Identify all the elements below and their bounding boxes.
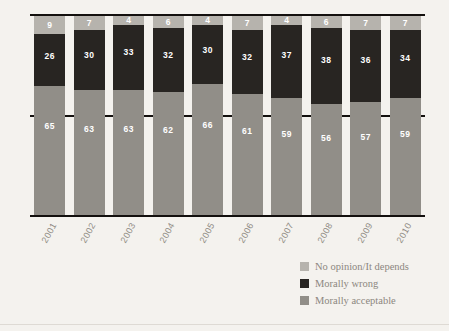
x-axis-tick-cell: 2003 xyxy=(109,219,149,265)
footer-divider xyxy=(0,324,449,325)
bar-value-label: 63 xyxy=(124,124,134,133)
bar-segment[interactable]: 56 xyxy=(311,104,342,215)
bar-segment[interactable]: 61 xyxy=(232,94,263,215)
bar-value-label: 4 xyxy=(126,16,131,25)
x-axis-tick-label: 2008 xyxy=(316,221,335,245)
bar-value-label: 32 xyxy=(242,52,252,61)
bar-segment[interactable]: 63 xyxy=(113,90,144,215)
bar-column[interactable]: 63856 xyxy=(311,16,342,215)
bar-segment[interactable]: 59 xyxy=(390,98,421,215)
bar-value-label: 30 xyxy=(84,51,94,60)
bar-value-label: 34 xyxy=(400,54,410,63)
bar-column[interactable]: 73657 xyxy=(350,16,381,215)
x-axis-tick-cell: 2002 xyxy=(70,219,110,265)
x-axis-tick-label: 2001 xyxy=(39,221,58,245)
bar-segment[interactable]: 30 xyxy=(74,30,105,90)
legend-item-label: Morally acceptable xyxy=(315,295,396,306)
x-axis-tick-cell: 2006 xyxy=(228,219,268,265)
bar-value-label: 7 xyxy=(87,19,92,28)
bar-segment[interactable]: 65 xyxy=(34,86,65,215)
x-axis-tick-label: 2005 xyxy=(197,221,216,245)
x-axis-tick-label: 2003 xyxy=(118,221,137,245)
bar-value-label: 30 xyxy=(203,45,213,54)
bar-segment[interactable]: 59 xyxy=(271,98,302,215)
bar-value-label: 4 xyxy=(205,16,210,25)
bar-segment[interactable]: 33 xyxy=(113,25,144,90)
bar-value-label: 7 xyxy=(363,19,368,28)
x-axis-tick-cell: 2001 xyxy=(30,219,70,265)
x-axis-tick-label: 2002 xyxy=(79,221,98,245)
bar-value-label: 9 xyxy=(47,21,52,30)
bar-segment[interactable]: 30 xyxy=(192,25,223,85)
x-axis-tick-cell: 2004 xyxy=(149,219,189,265)
bar-column[interactable]: 73459 xyxy=(390,16,421,215)
bar-segment[interactable]: 4 xyxy=(192,16,223,25)
bar-segment[interactable]: 7 xyxy=(350,16,381,30)
bar-value-label: 56 xyxy=(321,134,331,143)
bar-value-label: 61 xyxy=(242,127,252,136)
bar-segment[interactable]: 6 xyxy=(153,16,184,28)
bar-value-label: 7 xyxy=(245,19,250,28)
bar-value-label: 62 xyxy=(163,126,173,135)
bar-segment[interactable]: 36 xyxy=(350,30,381,102)
bar-value-label: 7 xyxy=(403,19,408,28)
bar-segment[interactable]: 38 xyxy=(311,28,342,104)
legend-color-swatch xyxy=(300,296,309,305)
bar-value-label: 4 xyxy=(284,16,289,25)
bar-segment[interactable]: 7 xyxy=(232,16,263,30)
axis-rule-baseline xyxy=(30,215,425,217)
legend-item-label: Morally wrong xyxy=(315,278,378,289)
bar-segment[interactable]: 57 xyxy=(350,102,381,215)
bar-column[interactable]: 43066 xyxy=(192,16,223,215)
x-axis-tick-cell: 2005 xyxy=(188,219,228,265)
bar-column[interactable]: 73261 xyxy=(232,16,263,215)
bar-value-label: 36 xyxy=(361,56,371,65)
bar-segment[interactable]: 32 xyxy=(232,30,263,94)
bar-value-label: 66 xyxy=(203,120,213,129)
bar-value-label: 65 xyxy=(45,121,55,130)
plot-area: 100% 50% 9266573063433636326243066732614… xyxy=(30,14,425,217)
bar-column[interactable]: 43363 xyxy=(113,16,144,215)
bar-value-label: 32 xyxy=(163,50,173,59)
bar-series-container: 9266573063433636326243066732614375963856… xyxy=(30,16,425,215)
bar-segment[interactable]: 34 xyxy=(390,30,421,98)
x-axis-tick-label: 2007 xyxy=(276,221,295,245)
bar-segment[interactable]: 66 xyxy=(192,84,223,215)
bar-segment[interactable]: 32 xyxy=(153,28,184,92)
bar-segment[interactable]: 26 xyxy=(34,34,65,86)
legend-item-label: No opinion/It depends xyxy=(315,261,409,272)
x-axis-tick-label: 2006 xyxy=(237,221,256,245)
bar-value-label: 63 xyxy=(84,124,94,133)
bar-column[interactable]: 63262 xyxy=(153,16,184,215)
bar-segment[interactable]: 6 xyxy=(311,16,342,28)
bar-segment[interactable]: 7 xyxy=(74,16,105,30)
bar-segment[interactable]: 37 xyxy=(271,25,302,98)
x-axis-tick-label: 2009 xyxy=(355,221,374,245)
legend-item[interactable]: No opinion/It depends xyxy=(300,258,445,274)
legend-color-swatch xyxy=(300,279,309,288)
bar-column[interactable]: 73063 xyxy=(74,16,105,215)
bar-segment[interactable]: 9 xyxy=(34,16,65,34)
bar-segment[interactable]: 4 xyxy=(271,16,302,25)
legend-item[interactable]: Morally wrong xyxy=(300,275,445,291)
bar-value-label: 38 xyxy=(321,55,331,64)
bar-segment[interactable]: 7 xyxy=(390,16,421,30)
stacked-bar-chart: 100% 50% 9266573063433636326243066732614… xyxy=(0,0,449,331)
chart-legend: No opinion/It dependsMorally wrongMorall… xyxy=(300,258,445,309)
bar-segment[interactable]: 63 xyxy=(74,90,105,215)
x-axis-tick-label: 2010 xyxy=(395,221,414,245)
bar-value-label: 37 xyxy=(282,51,292,60)
bar-value-label: 6 xyxy=(166,18,171,27)
bar-value-label: 57 xyxy=(361,132,371,141)
bar-value-label: 59 xyxy=(282,130,292,139)
bar-column[interactable]: 92665 xyxy=(34,16,65,215)
bar-value-label: 33 xyxy=(124,48,134,57)
bar-segment[interactable]: 62 xyxy=(153,92,184,215)
bar-segment[interactable]: 4 xyxy=(113,16,144,25)
bar-column[interactable]: 43759 xyxy=(271,16,302,215)
legend-item[interactable]: Morally acceptable xyxy=(300,292,445,308)
bar-value-label: 59 xyxy=(400,130,410,139)
bar-value-label: 26 xyxy=(45,51,55,60)
legend-color-swatch xyxy=(300,262,309,271)
x-axis-tick-label: 2004 xyxy=(158,221,177,245)
